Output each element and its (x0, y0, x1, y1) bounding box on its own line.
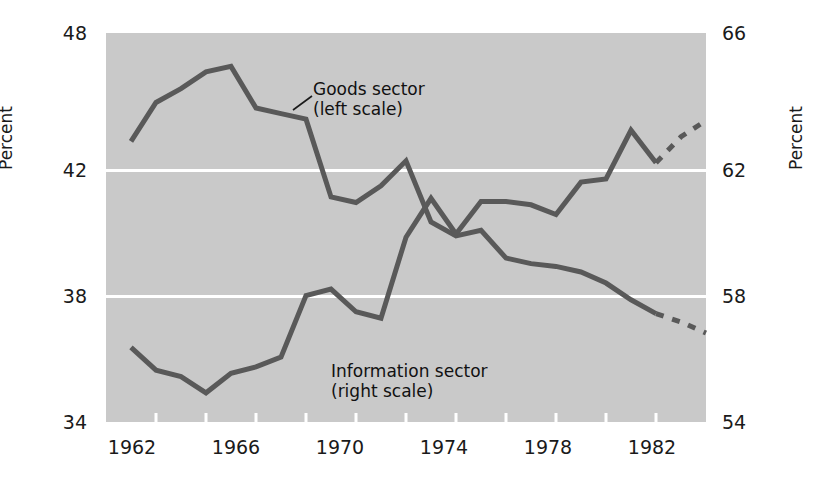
chart-figure: 48 42 38 34 66 62 58 54 1962 1966 1970 1… (0, 0, 813, 485)
x-axis-tick-1966: 1966 (196, 436, 276, 458)
goods-leader-line (293, 96, 312, 110)
series-line-information-sector-projected (656, 121, 706, 163)
annotation-goods-line2: (left scale) (313, 100, 425, 120)
x-axis-tick-1970: 1970 (300, 436, 380, 458)
series-line-information-sector (131, 130, 656, 393)
annotation-goods-line1: Goods sector (313, 79, 425, 99)
y-axis-left-tick-48: 48 (63, 22, 87, 44)
x-axis-tick-1962: 1962 (92, 436, 172, 458)
y-axis-left-tick-42: 42 (63, 159, 87, 181)
y-axis-left-tick-34: 34 (63, 411, 87, 433)
annotation-goods-sector: Goods sector (left scale) (313, 80, 425, 119)
annotation-information-sector: Information sector (right scale) (331, 362, 488, 401)
x-axis-tick-1982: 1982 (612, 436, 692, 458)
y-axis-left-title: Percent (0, 106, 16, 170)
y-axis-right-tick-62: 62 (722, 159, 746, 181)
series-line-goods-sector-projected (656, 314, 706, 333)
y-axis-right-title: Percent (786, 106, 806, 170)
x-axis-tick-1974: 1974 (404, 436, 484, 458)
x-axis-tick-1978: 1978 (508, 436, 588, 458)
y-axis-right-tick-66: 66 (722, 22, 746, 44)
y-axis-left-tick-38: 38 (63, 285, 87, 307)
annotation-information-line2: (right scale) (331, 382, 488, 402)
annotation-information-line1: Information sector (331, 361, 488, 381)
series-layer (0, 0, 813, 485)
y-axis-right-tick-58: 58 (722, 285, 746, 307)
y-axis-right-tick-54: 54 (722, 411, 746, 433)
